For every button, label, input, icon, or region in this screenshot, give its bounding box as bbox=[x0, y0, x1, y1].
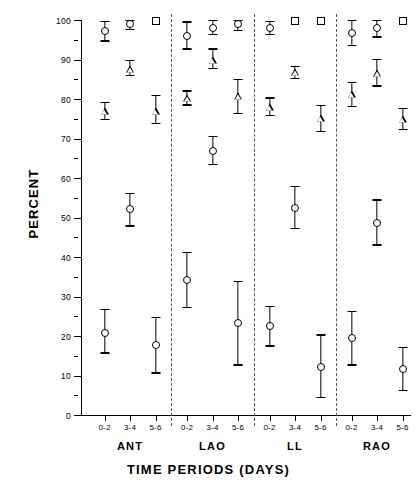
error-bar-cap-upper bbox=[234, 79, 243, 80]
marker-circle bbox=[152, 341, 160, 349]
x-tick bbox=[295, 416, 296, 421]
x-tick-label: 3-4 bbox=[282, 423, 308, 432]
error-bar-cap-lower bbox=[100, 40, 109, 41]
marker-triangle bbox=[101, 108, 109, 115]
marker-circle bbox=[101, 329, 109, 337]
error-bar-cap-upper bbox=[373, 199, 382, 200]
y-tick-minor bbox=[74, 395, 78, 396]
error-bar-cap-upper bbox=[183, 252, 192, 253]
y-tick-minor bbox=[74, 79, 78, 80]
chart-figure: PERCENT TIME PERIODS (DAYS) 010203040506… bbox=[0, 0, 417, 489]
error-bar-cap-upper bbox=[316, 334, 325, 335]
error-bar-cap-lower bbox=[208, 34, 217, 35]
marker-circle bbox=[209, 147, 217, 155]
y-tick-label: 20 bbox=[45, 332, 71, 342]
error-bar-cap-lower bbox=[373, 85, 382, 86]
marker-circle bbox=[209, 24, 217, 32]
marker-circle bbox=[348, 29, 356, 37]
group-label-lao: LAO bbox=[178, 440, 248, 452]
error-bar-cap-lower bbox=[100, 119, 109, 120]
y-axis-title: PERCENT bbox=[26, 149, 41, 259]
group-divider bbox=[171, 14, 172, 426]
error-bar-cap-upper bbox=[316, 105, 325, 106]
y-tick-major bbox=[74, 20, 81, 21]
error-bar-cap-upper bbox=[234, 281, 243, 282]
x-tick-label: 5-6 bbox=[143, 423, 169, 432]
error-bar-cap-lower bbox=[208, 68, 217, 69]
error-bar-cap-upper bbox=[398, 108, 407, 109]
error-bar-cap-upper bbox=[183, 90, 192, 91]
x-tick bbox=[238, 416, 239, 421]
y-tick-minor bbox=[74, 316, 78, 317]
error-bar-cap-lower bbox=[265, 34, 274, 35]
marker-square bbox=[291, 17, 299, 25]
error-bar-cap-lower bbox=[291, 228, 300, 229]
error-bar-cap-lower bbox=[316, 131, 325, 132]
y-tick-label: 0 bbox=[45, 411, 71, 421]
y-tick-minor bbox=[74, 356, 78, 357]
marker-circle bbox=[126, 20, 134, 28]
error-bar-cap-upper bbox=[347, 311, 356, 312]
y-axis-line bbox=[81, 20, 82, 416]
y-tick-label: 100 bbox=[45, 16, 71, 26]
x-tick bbox=[105, 416, 106, 421]
error-bar-cap-upper bbox=[373, 59, 382, 60]
y-tick-minor bbox=[74, 198, 78, 199]
marker-circle bbox=[373, 219, 381, 227]
marker-circle bbox=[266, 322, 274, 330]
y-tick-major bbox=[74, 336, 81, 337]
x-tick bbox=[403, 416, 404, 421]
error-bar-cap-upper bbox=[347, 82, 356, 83]
error-bar-cap-lower bbox=[151, 123, 160, 124]
marker-circle bbox=[101, 27, 109, 35]
x-tick-label: 5-6 bbox=[390, 423, 416, 432]
error-bar-cap-upper bbox=[398, 347, 407, 348]
marker-circle bbox=[126, 205, 134, 213]
marker-circle bbox=[373, 24, 381, 32]
y-tick-label: 10 bbox=[45, 371, 71, 381]
x-tick-label: 0-2 bbox=[174, 423, 200, 432]
marker-circle bbox=[183, 276, 191, 284]
x-tick-label: 0-2 bbox=[257, 423, 283, 432]
y-tick-major bbox=[74, 376, 81, 377]
x-tick-label: 0-2 bbox=[339, 423, 365, 432]
y-tick-major bbox=[74, 297, 81, 298]
y-tick-label: 90 bbox=[45, 55, 71, 65]
marker-triangle bbox=[234, 93, 242, 100]
marker-triangle bbox=[399, 116, 407, 123]
y-tick-label: 70 bbox=[45, 134, 71, 144]
error-bar-cap-lower bbox=[126, 29, 135, 30]
y-tick-minor bbox=[74, 158, 78, 159]
x-tick-label: 5-6 bbox=[308, 423, 334, 432]
error-bar-cap-lower bbox=[183, 48, 192, 49]
y-tick-minor bbox=[74, 277, 78, 278]
marker-triangle bbox=[266, 104, 274, 111]
error-bar-cap-lower bbox=[183, 104, 192, 105]
error-bar-cap-upper bbox=[265, 97, 274, 98]
x-tick-label: 3-4 bbox=[200, 423, 226, 432]
error-bar-cap-upper bbox=[151, 317, 160, 318]
group-label-ant: ANT bbox=[95, 440, 165, 452]
marker-triangle bbox=[348, 91, 356, 98]
x-tick bbox=[130, 416, 131, 421]
y-tick-major bbox=[74, 257, 81, 258]
error-bar-cap-upper bbox=[208, 48, 217, 49]
marker-circle bbox=[317, 363, 325, 371]
error-bar-cap-lower bbox=[234, 364, 243, 365]
marker-square bbox=[317, 17, 325, 25]
marker-triangle bbox=[291, 68, 299, 75]
error-bar-cap-upper bbox=[347, 20, 356, 21]
marker-circle bbox=[266, 24, 274, 32]
error-bar-cap-upper bbox=[373, 20, 382, 21]
y-tick-label: 60 bbox=[45, 174, 71, 184]
marker-triangle bbox=[373, 69, 381, 76]
error-bar-cap-upper bbox=[183, 21, 192, 22]
y-tick-major bbox=[74, 218, 81, 219]
x-tick bbox=[187, 416, 188, 421]
group-divider bbox=[336, 14, 337, 426]
error-bar-cap-lower bbox=[151, 372, 160, 373]
marker-triangle bbox=[209, 57, 217, 64]
error-bar-cap-lower bbox=[234, 113, 243, 114]
x-tick bbox=[213, 416, 214, 421]
y-tick-label: 80 bbox=[45, 95, 71, 105]
